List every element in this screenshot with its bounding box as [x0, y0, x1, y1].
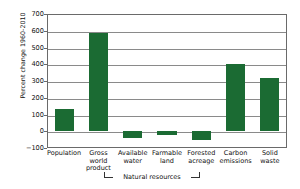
y-tick-label-400: 400 — [4, 60, 44, 68]
bar-carbon-emissions — [226, 64, 245, 131]
y-tick-label-0: 0 — [4, 127, 44, 135]
bar-chart: Percent change 1960-2010 −10001002003004… — [0, 0, 300, 189]
y-tick-label-500: 500 — [4, 44, 44, 52]
x-label-line: product — [86, 164, 111, 172]
bar-gross-world-product — [89, 33, 108, 131]
bar-solid-waste — [260, 78, 279, 132]
y-tick-label--100: −100 — [4, 144, 44, 152]
y-tick-label-600: 600 — [4, 27, 44, 35]
bar-forested-acreage — [192, 131, 211, 139]
bracket-label: Natural resources — [104, 173, 200, 181]
bar-population — [55, 109, 74, 131]
bars-layer — [47, 14, 287, 148]
bar-available-water — [123, 131, 142, 138]
x-label-line: acreage — [188, 157, 214, 165]
bar-farmable-land — [157, 131, 176, 134]
y-axis-ticks: −1000100200300400500600700 — [0, 14, 44, 148]
x-label-line: water — [123, 157, 142, 165]
x-axis-label-solid-waste: Solidwaste — [248, 150, 292, 165]
y-tick-label-700: 700 — [4, 10, 44, 18]
y-tick-label-200: 200 — [4, 94, 44, 102]
bracket-tick-right — [199, 172, 200, 178]
y-tick-label-300: 300 — [4, 77, 44, 85]
natural-resources-bracket: Natural resources — [104, 172, 200, 184]
y-tick-label-100: 100 — [4, 111, 44, 119]
x-label-line: waste — [260, 157, 279, 165]
x-label-line: land — [160, 157, 174, 165]
